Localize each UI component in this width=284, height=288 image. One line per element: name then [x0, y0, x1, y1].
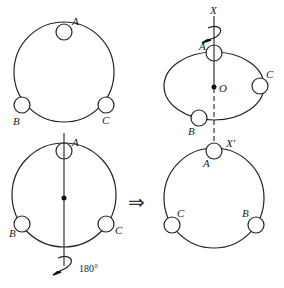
label-b: B [13, 115, 20, 127]
label-a: A [71, 15, 79, 27]
bead-c [252, 78, 268, 94]
label-a: A [71, 136, 79, 148]
center-dot [212, 85, 217, 90]
label-b: B [188, 125, 195, 137]
label-c: C [102, 114, 110, 126]
label-c: C [177, 207, 185, 219]
bead-c [98, 97, 114, 113]
label-x-prime: X′ [225, 137, 236, 149]
label-a: A [202, 157, 210, 169]
bead-c [164, 217, 180, 233]
label-b: B [242, 207, 249, 219]
bead-b [14, 97, 30, 113]
center-dot [62, 196, 67, 201]
ring [164, 148, 264, 248]
label-c: C [115, 224, 123, 236]
implies-arrow-icon: ⇒ [128, 190, 145, 214]
rotation-angle-label: 180° [79, 263, 98, 274]
bead-c [98, 216, 114, 232]
label-o: O [219, 82, 227, 94]
bead-b [14, 216, 30, 232]
bead-b [191, 110, 207, 126]
panel-bottom-right: X′ A C B [164, 137, 264, 248]
label-x: X [209, 4, 218, 16]
rotation-symmetry-diagram: A B C A B C 180° ⇒ X A C B [0, 0, 284, 288]
panel-top-left: A B C [13, 15, 114, 127]
label-c: C [266, 68, 274, 80]
bead-a [56, 24, 72, 40]
bead-b [248, 217, 264, 233]
rotation-arrow-icon [53, 256, 71, 275]
panel-top-right: X A C B O [164, 4, 274, 142]
panel-bottom-left: A B C 180° [9, 133, 123, 275]
rotation-arrow-icon [202, 26, 221, 43]
label-b: B [9, 227, 16, 239]
